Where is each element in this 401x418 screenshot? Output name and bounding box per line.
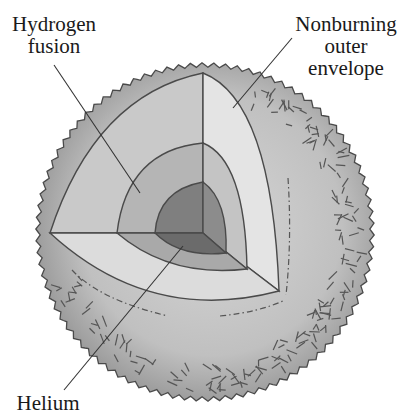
label-line: Hydrogen (2, 13, 106, 35)
label-line: fusion (2, 35, 106, 57)
label-line: outer (290, 35, 401, 57)
label-helium: Helium (12, 392, 84, 414)
label-line: envelope (290, 57, 401, 79)
label-nonburning-envelope: Nonburning outer envelope (290, 13, 401, 79)
label-line: Nonburning (290, 13, 401, 35)
label-hydrogen-fusion: Hydrogen fusion (2, 13, 106, 57)
label-line: Helium (12, 392, 84, 414)
star-structure-diagram: Hydrogen fusion Nonburning outer envelop… (0, 0, 401, 418)
